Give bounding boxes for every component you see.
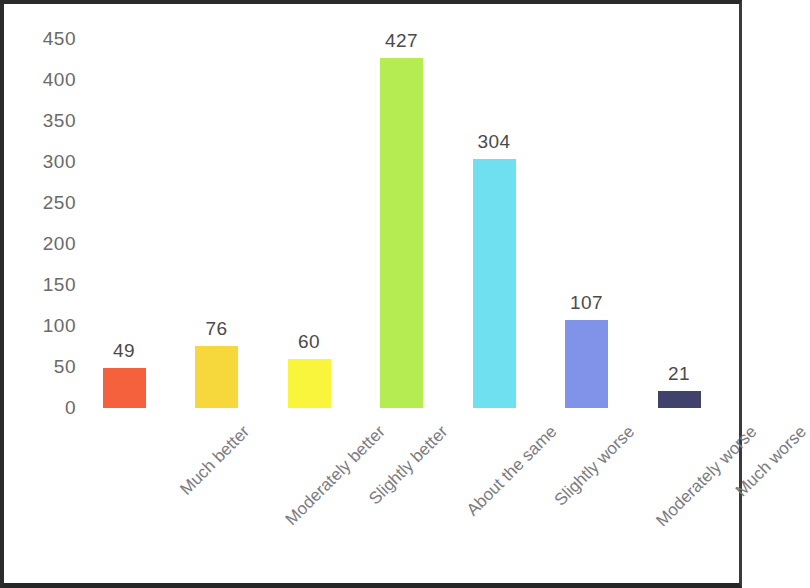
bar[interactable] bbox=[658, 391, 701, 408]
bar[interactable] bbox=[103, 368, 146, 408]
bar-group[interactable]: 427 bbox=[358, 58, 446, 408]
bar-value-label: 427 bbox=[358, 30, 446, 52]
bar-value-label: 304 bbox=[450, 131, 538, 153]
bar-value-label: 60 bbox=[265, 331, 353, 353]
bar-group[interactable]: 21 bbox=[635, 391, 723, 408]
bar-value-label: 76 bbox=[173, 318, 261, 340]
x-axis-category-label: Slightly worse bbox=[551, 422, 639, 510]
bar-group[interactable]: 76 bbox=[173, 346, 261, 408]
x-axis-category-label: About the same bbox=[462, 422, 560, 520]
bar-value-label: 49 bbox=[80, 340, 168, 362]
bar[interactable] bbox=[380, 58, 423, 408]
bar[interactable] bbox=[565, 320, 608, 408]
bar[interactable] bbox=[288, 359, 331, 408]
bar-group[interactable]: 49 bbox=[80, 368, 168, 408]
bar-value-label: 21 bbox=[635, 363, 723, 385]
bar-value-label: 107 bbox=[543, 292, 631, 314]
bar[interactable] bbox=[195, 346, 238, 408]
bar-group[interactable]: 304 bbox=[450, 159, 538, 408]
bar-group[interactable]: 107 bbox=[543, 320, 631, 408]
plot-area: 450400350300250200150100500 497660427304… bbox=[4, 4, 740, 584]
x-axis-labels: Much betterModerately betterSlightly bet… bbox=[4, 408, 740, 584]
bar-group[interactable]: 60 bbox=[265, 359, 353, 408]
x-axis-category-label: Moderately better bbox=[281, 422, 389, 530]
x-axis-category-label: Much better bbox=[176, 422, 254, 500]
bar[interactable] bbox=[473, 159, 516, 408]
